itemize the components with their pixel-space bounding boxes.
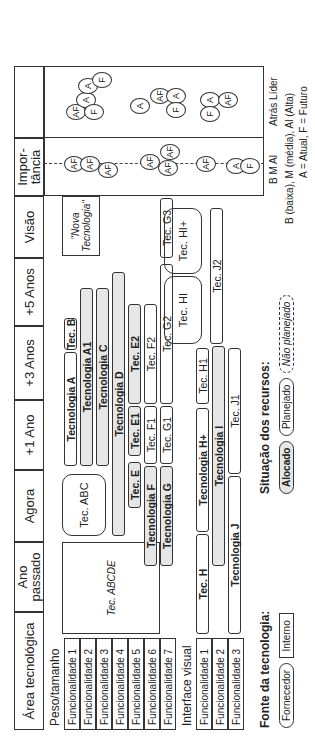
bar-tecnologia-f: Tecnologia F <box>144 466 157 566</box>
bar-tecnologia-c: Tecnologia C <box>96 288 109 466</box>
bar-tec-g2: Tec. G2 <box>160 264 173 404</box>
bar-tec-h1: Tec. H1 <box>196 348 209 404</box>
bar-tec-j2: Tec. J2 <box>210 208 223 344</box>
bar-tec-e2: Tec. E2 <box>128 304 141 404</box>
header-mais5: +5 Anos <box>14 258 44 326</box>
group-title-peso: Peso/tamanho <box>48 649 62 726</box>
row-label: Funcionalidade 7 <box>160 638 176 730</box>
marker-af: AF <box>80 156 100 172</box>
legend-fonte-title: Fonte da tecnologia: <box>258 611 272 728</box>
tech-abc-box: Tec. ABC <box>62 474 106 536</box>
marker-a: A <box>130 98 150 114</box>
legend-situacao-title: Situação dos recursos: <box>258 361 272 494</box>
row-label: Funcionalidade 6 <box>144 638 160 730</box>
header-mais1: +1 Ano <box>14 400 44 470</box>
row-label: Funcionalidade 4 <box>112 638 128 730</box>
bar-tec-j1: Tec. J1 <box>228 348 241 474</box>
legend-scale-pos: Atrás Líder <box>268 77 279 126</box>
header-mais3: +3 Anos <box>14 326 44 400</box>
bar-tecnologia-d: Tecnologia D <box>112 272 125 536</box>
legend-fornecedor: Fornecedor <box>279 663 294 728</box>
bar-tecnologia-j: Tecnologia J <box>228 476 241 634</box>
legend-scale-imp: B M Al <box>268 155 279 184</box>
bar-tec-g3: Tec. G3 <box>160 198 173 258</box>
row-label: Funcionalidade 1 <box>64 638 80 730</box>
marker-f: F <box>166 102 186 118</box>
bar-tecnologia-a: Tecnologia A <box>64 352 77 466</box>
marker-af: AF <box>158 160 178 176</box>
row-label: Funcionalidade 3 <box>228 638 244 730</box>
row-label: Funcionalidade 1 <box>196 638 212 730</box>
marker-af: AF <box>160 144 180 160</box>
header-agora: Agora <box>14 470 44 542</box>
legend-note1: B (baixa), M (média), Al (Alta) <box>284 93 295 224</box>
nova-tecnologia-box: "Nova Tecnologia" <box>62 196 100 256</box>
roadmap-diagram: Área tecnológica Ano passado Agora +1 An… <box>0 0 315 744</box>
marker-af: AF <box>98 162 118 178</box>
bar-tecnologia-hplus: Tecnologia H+ <box>196 408 209 532</box>
legend-alocado: Alocado <box>279 441 294 494</box>
divider <box>44 137 264 138</box>
header-area: Área tecnológica <box>14 612 44 730</box>
header-ano-passado: Ano passado <box>14 542 44 612</box>
bar-tec-f2: Tec. F2 <box>144 304 157 404</box>
legend-note2: A = Atual, F = Futuro <box>298 86 309 178</box>
group-title-interface: Interface visual <box>180 645 194 726</box>
bar-tecnologia-g: Tecnologia G <box>160 466 173 566</box>
marker-f: F <box>200 106 220 122</box>
marker-f: F <box>240 158 260 174</box>
bar-tecnologia-a1: Tecnologia A1 <box>80 288 93 466</box>
header-importancia: Impor- tância <box>14 138 44 196</box>
marker-f: F <box>92 72 112 88</box>
marker-af: AF <box>218 92 238 108</box>
importance-panel <box>44 66 264 196</box>
legend-situacao: Alocado Planejado Não planejado <box>276 295 294 494</box>
legend-planejado: Planejado <box>279 378 294 436</box>
marker-f: F <box>84 104 104 120</box>
header-position <box>14 66 44 138</box>
legend-nao-planejado: Não planejado <box>279 295 294 374</box>
row-label: Funcionalidade 3 <box>96 638 112 730</box>
row-label: Funcionalidade 5 <box>128 638 144 730</box>
bar-tec-h: Tec. H <box>196 534 209 634</box>
row-label: Funcionalidade 2 <box>212 638 228 730</box>
bar-tec-b: Tec. B <box>64 318 77 350</box>
legend-interno: Interno <box>279 613 294 658</box>
bar-tec-e1: Tec. E1 <box>128 406 141 456</box>
row-label: Funcionalidade 2 <box>80 638 96 730</box>
bar-tec-e: Tec. E <box>128 462 141 508</box>
marker-af: AF <box>140 154 160 170</box>
bar-tecnologia-i: Tecnologia I <box>212 346 225 566</box>
header-visao: Visão <box>14 196 44 258</box>
legend-fonte: Fornecedor Interno <box>276 613 294 728</box>
marker-af: AF <box>196 156 216 172</box>
bar-tec-f1: Tec. F1 <box>144 406 157 464</box>
bar-tec-g1: Tec. G1 <box>160 406 173 464</box>
